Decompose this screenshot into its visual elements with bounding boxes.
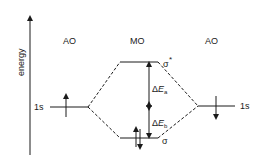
sigma-star-superscript: * <box>169 55 172 64</box>
correlation-lines <box>88 62 198 138</box>
delta-e-b-label: ΔEb <box>152 118 168 129</box>
sigma-star-level: σ * <box>120 55 172 69</box>
right-ao-label: 1s <box>240 101 250 111</box>
energy-axis: energy <box>16 18 30 155</box>
left-ao-label: 1s <box>34 102 44 112</box>
left-ao-header: AO <box>63 36 76 46</box>
mo-header: MO <box>130 36 145 46</box>
left-ao-level: 1s <box>34 96 88 117</box>
right-ao-level: 1s <box>198 96 250 117</box>
sigma-level: σ <box>120 129 168 147</box>
mo-diagram: energy AO MO AO 1s 1s σ * σ ΔEa <box>0 0 266 162</box>
right-ao-header: AO <box>205 36 218 46</box>
sigma-label: σ <box>162 136 168 146</box>
delta-e-a-label: ΔEa <box>152 84 168 95</box>
delta-e-b-arrow: ΔEb <box>149 108 168 136</box>
energy-axis-label: energy <box>16 48 26 76</box>
